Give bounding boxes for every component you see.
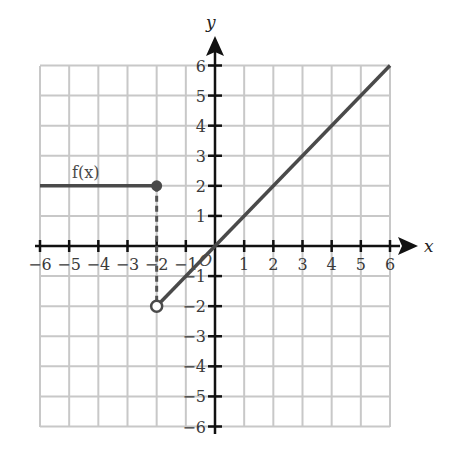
closed-point-icon xyxy=(151,180,162,191)
y-tick-label: 1 xyxy=(196,207,206,226)
x-axis-arrow-icon xyxy=(398,237,418,255)
y-tick-label: −4 xyxy=(182,357,206,376)
x-tick-label: −6 xyxy=(28,255,52,274)
y-tick-label: −2 xyxy=(182,297,206,316)
x-tick-label: 6 xyxy=(385,255,395,274)
y-tick-label: 5 xyxy=(196,87,206,106)
y-tick-label: −5 xyxy=(182,387,206,406)
open-point-icon xyxy=(151,301,162,312)
axes: x y xyxy=(35,12,434,434)
x-tick-label: 2 xyxy=(268,255,278,274)
x-tick-label: 3 xyxy=(297,255,307,274)
x-axis-label: x xyxy=(424,236,434,256)
y-tick-label: 2 xyxy=(196,177,206,196)
origin-label: O xyxy=(199,251,212,270)
x-tick-label: −5 xyxy=(57,255,81,274)
x-tick-label: 5 xyxy=(356,255,366,274)
y-tick-label: 6 xyxy=(196,57,206,76)
y-tick-label: −3 xyxy=(182,327,206,346)
x-tick-label: −3 xyxy=(116,255,140,274)
x-tick-label: −4 xyxy=(87,255,111,274)
y-tick-label: −6 xyxy=(182,418,206,437)
y-tick-label: 3 xyxy=(196,147,206,166)
coordinate-plane: x y −6−5−4−3−2−1123456654321−1−2−3−4−5−6… xyxy=(0,0,456,461)
x-tick-label: 1 xyxy=(239,255,249,274)
y-axis-label: y xyxy=(205,12,216,32)
y-tick-label: 4 xyxy=(196,117,206,136)
x-tick-label: 4 xyxy=(327,255,337,274)
function-label: f(x) xyxy=(72,163,99,182)
